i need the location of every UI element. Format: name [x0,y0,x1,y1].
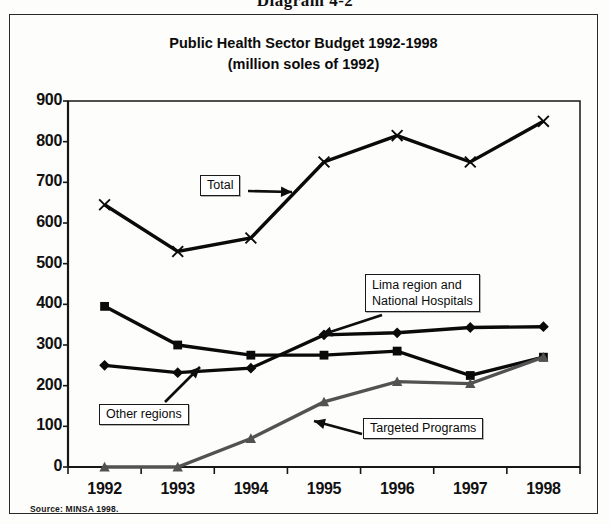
x-tick-label: 1993 [145,480,211,498]
y-tick-label: 600 [10,213,62,231]
arrow-total [248,187,292,197]
chart-svg [10,15,599,515]
annotation-arrows [165,187,382,434]
x-tick-label: 1994 [218,480,284,498]
y-tick-label: 200 [10,376,62,394]
arrow-targeted-programs [314,419,362,434]
annotation-targeted-programs: Targeted Programs [363,418,483,439]
y-tick-label: 300 [10,335,62,353]
figure-page: Diagram 4-2 Public Health Sector Budget … [0,0,610,524]
annotation-lima: Lima region and National Hospitals [365,274,480,312]
annotation-lima-line1: Lima region and [372,277,473,293]
annotation-total: Total [200,175,240,196]
x-tick-label: 1996 [364,480,430,498]
series-other-regions [100,302,548,380]
y-tick-label: 900 [10,91,62,109]
source-note: Source: MINSA 1998. [30,504,119,514]
y-tick-label: 500 [10,254,62,272]
y-tick-label: 0 [10,457,62,475]
series-lima-region-and-national-hospitals [99,321,549,378]
x-tick-label: 1995 [291,480,357,498]
plot-area: 0100200300400500600700800900 19921993199… [10,15,599,515]
series-total [99,116,549,257]
y-tick-label: 800 [10,132,62,150]
x-tick-label: 1997 [437,480,503,498]
y-tick-label: 700 [10,172,62,190]
annotation-lima-line2: National Hospitals [372,293,473,309]
x-tick-label: 1998 [510,480,576,498]
annotation-other-regions: Other regions [99,404,189,425]
x-tick-label: 1992 [72,480,138,498]
figure-caption: Diagram 4-2 [0,0,610,11]
y-tick-label: 100 [10,416,62,434]
y-tick-label: 400 [10,294,62,312]
figure-frame: Public Health Sector Budget 1992-1998 (m… [9,14,598,514]
